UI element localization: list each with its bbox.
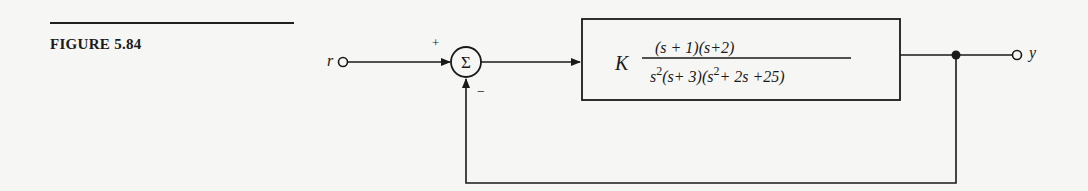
gain-K: K bbox=[614, 52, 630, 74]
summing-junction: Σ + − bbox=[432, 35, 485, 99]
output-terminal-icon bbox=[1013, 51, 1022, 60]
numerator: (s + 1)(s+2) bbox=[655, 39, 734, 57]
plant-block: K (s + 1)(s+2) s2(s+ 3)(s2+ 2s +25) bbox=[582, 19, 900, 100]
input-node: r bbox=[327, 52, 348, 69]
plant-box bbox=[582, 19, 900, 100]
block-diagram: r Σ + − K (s + 1)(s+2) s2(s+ 3)(s2+ 2s +… bbox=[0, 0, 1088, 191]
input-terminal-icon bbox=[339, 58, 348, 67]
input-label: r bbox=[327, 52, 334, 69]
minus-sign: − bbox=[477, 84, 485, 99]
plus-sign: + bbox=[432, 35, 439, 50]
output-label: y bbox=[1027, 44, 1037, 62]
sigma-symbol: Σ bbox=[461, 53, 471, 72]
